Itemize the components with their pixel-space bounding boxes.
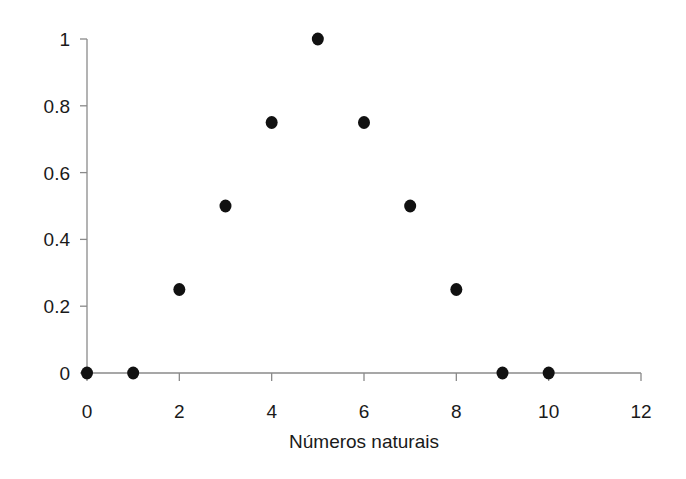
axes: 00.20.40.60.81024681012 bbox=[44, 29, 652, 422]
x-tick-label: 10 bbox=[538, 401, 559, 422]
data-point bbox=[404, 200, 416, 213]
y-tick-label: 0.4 bbox=[44, 229, 71, 250]
data-point bbox=[173, 283, 185, 296]
x-tick-label: 8 bbox=[451, 401, 462, 422]
y-tick-label: 0.8 bbox=[44, 96, 70, 117]
x-tick-label: 12 bbox=[630, 401, 651, 422]
data-point bbox=[312, 33, 324, 46]
y-tick-label: 1 bbox=[59, 29, 70, 50]
scatter-chart: 00.20.40.60.81024681012 Números naturais bbox=[0, 0, 686, 479]
data-point bbox=[358, 116, 370, 129]
x-tick-label: 6 bbox=[359, 401, 370, 422]
x-tick-label: 0 bbox=[82, 401, 93, 422]
data-point bbox=[266, 116, 278, 129]
data-point bbox=[127, 367, 139, 380]
data-point bbox=[450, 283, 462, 296]
data-point bbox=[81, 367, 93, 380]
data-point bbox=[497, 367, 509, 380]
x-tick-label: 2 bbox=[174, 401, 185, 422]
data-point bbox=[220, 200, 232, 213]
x-tick-label: 4 bbox=[266, 401, 277, 422]
y-tick-label: 0.6 bbox=[44, 163, 70, 184]
data-points bbox=[81, 33, 555, 380]
x-axis-title: Números naturais bbox=[289, 431, 439, 452]
data-point bbox=[543, 367, 555, 380]
y-tick-label: 0.2 bbox=[44, 296, 70, 317]
y-tick-label: 0 bbox=[59, 363, 70, 384]
